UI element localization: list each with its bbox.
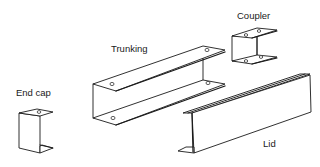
coupler-hole [244,34,247,37]
trunking-hole [205,48,209,51]
coupler-label: Coupler [237,10,270,21]
end-cap-hole [37,111,41,114]
trunking-hole [206,81,210,84]
end-cap-part [19,109,53,153]
trunking-hole [110,82,114,85]
trunking-hole [111,116,115,119]
end-cap-label: End cap [16,87,51,98]
lid-bottom-lip [178,147,194,153]
coupler-hole [259,56,262,59]
coupler-part [232,28,277,64]
coupler-hole [244,60,247,63]
coupler-hole [257,30,260,33]
trunking-label: Trunking [111,43,148,54]
end-cap-front-face [19,113,40,153]
lid-label: Lid [263,138,276,149]
trunking-components-diagram: Trunking Coupler End cap [0,0,320,167]
